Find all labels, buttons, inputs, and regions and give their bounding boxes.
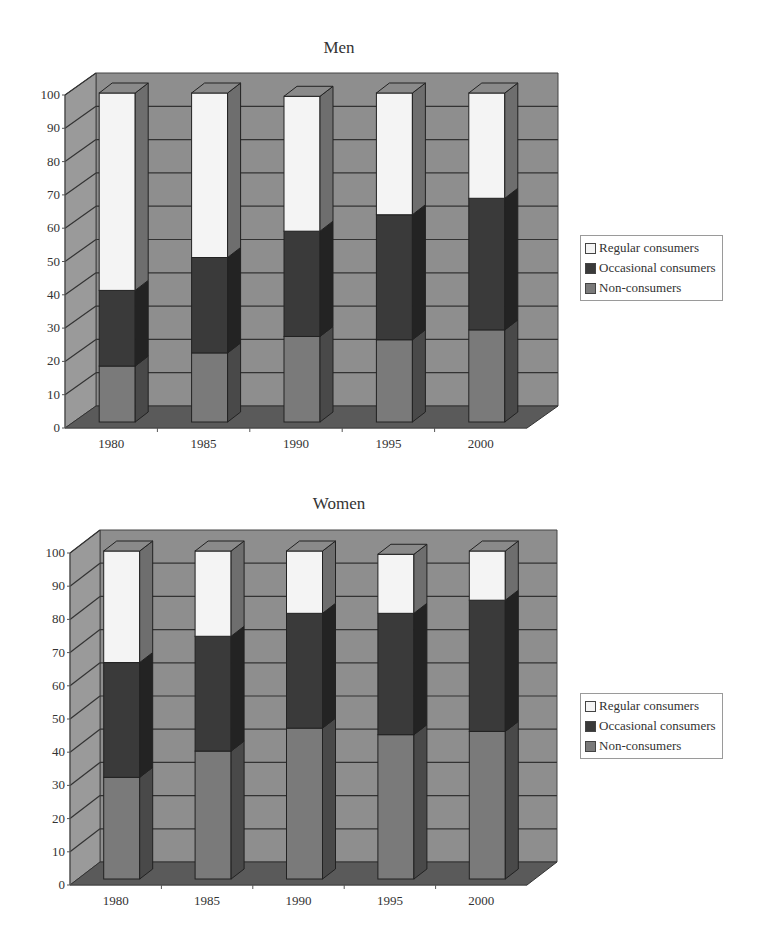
bar-1995 xyxy=(378,544,427,879)
x-tick-label: 2000 xyxy=(468,893,494,908)
y-tick-label: 10 xyxy=(52,844,65,859)
bar-segment-occasional xyxy=(378,613,414,734)
bar-segment-non xyxy=(104,777,140,879)
y-tick-label: 100 xyxy=(46,545,66,560)
bar-segment-regular xyxy=(195,551,231,636)
y-tick-label: 0 xyxy=(59,877,66,892)
bar-segment-non xyxy=(287,728,323,879)
bar-segment-occasional xyxy=(104,663,140,778)
y-tick-label: 50 xyxy=(52,711,65,726)
occasional-swatch-icon xyxy=(585,721,596,732)
bar-1985 xyxy=(195,541,244,879)
x-tick-label: 1985 xyxy=(194,893,220,908)
bar-segment-regular xyxy=(469,551,505,600)
bar-1990 xyxy=(287,541,336,879)
y-tick-label: 60 xyxy=(52,678,65,693)
y-tick-label: 70 xyxy=(52,645,65,660)
y-tick-label: 20 xyxy=(52,811,65,826)
y-tick-label: 40 xyxy=(52,744,65,759)
y-tick-label: 30 xyxy=(52,777,65,792)
x-tick-label: 1995 xyxy=(377,893,403,908)
x-tick-label: 1990 xyxy=(286,893,312,908)
bar-segment-non xyxy=(469,731,505,879)
bar-segment-non xyxy=(195,751,231,879)
bar-segment-occasional xyxy=(469,600,505,731)
regular-swatch-icon xyxy=(585,701,596,712)
legend-item-occasional: Occasional consumers xyxy=(585,716,716,736)
bar-2000 xyxy=(469,541,518,879)
y-tick-label: 90 xyxy=(52,578,65,593)
non-swatch-icon xyxy=(585,741,596,752)
bar-segment-regular xyxy=(378,554,414,613)
y-tick-label: 80 xyxy=(52,611,65,626)
legend-item-regular: Regular consumers xyxy=(585,696,716,716)
bar-segment-regular xyxy=(287,551,323,613)
bar-segment-occasional xyxy=(195,636,231,751)
women-legend: Regular consumers Occasional consumers N… xyxy=(580,693,723,759)
bar-1980 xyxy=(104,541,153,879)
legend-label: Non-consumers xyxy=(599,736,681,756)
bar-segment-non xyxy=(378,735,414,879)
legend-label: Regular consumers xyxy=(599,696,699,716)
legend-item-non: Non-consumers xyxy=(585,736,716,756)
legend-label: Occasional consumers xyxy=(599,716,716,736)
x-tick-label: 1980 xyxy=(103,893,129,908)
bar-segment-regular xyxy=(104,551,140,663)
bar-segment-occasional xyxy=(287,613,323,728)
women-stacked-bar-chart: 0102030405060708090100198019851990199520… xyxy=(0,0,778,944)
